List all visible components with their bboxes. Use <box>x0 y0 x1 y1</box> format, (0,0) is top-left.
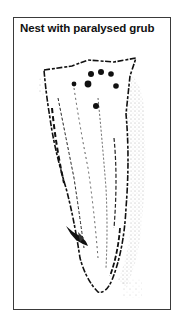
wood-body <box>44 58 136 292</box>
figure-frame: Nest with paralysed grub <box>13 17 171 310</box>
nest-illustration <box>14 18 172 311</box>
